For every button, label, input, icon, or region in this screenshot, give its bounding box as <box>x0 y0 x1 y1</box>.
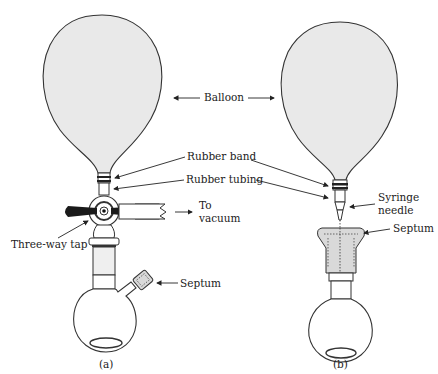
apparatus-a <box>43 15 166 352</box>
label-septum-a: Septum <box>180 277 221 289</box>
label-vacuum: vacuum <box>198 212 241 224</box>
label-septum-b: Septum <box>393 222 434 234</box>
caption-a: (a) <box>99 358 113 370</box>
label-syringe: Syringe <box>378 191 419 203</box>
label-three-way-tap: Three-way tap <box>11 238 88 250</box>
label-rubber-tubing: Rubber tubing <box>186 173 264 185</box>
balloon-apparatus-diagram: Balloon Rubber band Rubber tubing To vac… <box>0 0 438 374</box>
caption-b: (b) <box>333 358 348 370</box>
balloon-a <box>43 15 162 173</box>
label-rubber-band: Rubber band <box>187 150 256 162</box>
balloon-b <box>281 22 397 180</box>
label-to: To <box>199 199 212 211</box>
label-needle: needle <box>378 204 413 216</box>
septum-b <box>318 228 365 273</box>
label-balloon: Balloon <box>204 91 244 103</box>
